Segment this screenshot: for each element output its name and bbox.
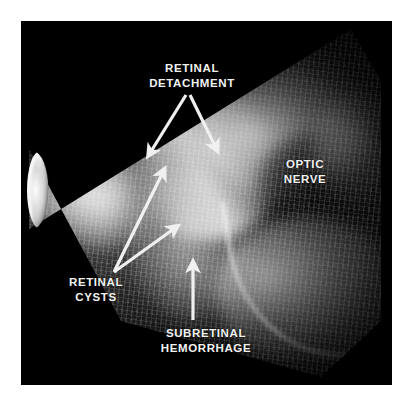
- label-retinal-cysts: RETINAL CYSTS: [36, 275, 156, 304]
- label-subretinal-hemorrhage: SUBRETINAL HEMORRHAGE: [126, 326, 286, 355]
- label-optic-nerve: OPTIC NERVE: [258, 157, 352, 186]
- probe-contact-arc-highlight: [31, 157, 47, 223]
- label-retinal-detachment: RETINAL DETACHMENT: [122, 61, 262, 90]
- ultrasound-figure: RETINAL DETACHMENT OPTIC NERVE RETINAL C…: [0, 0, 413, 410]
